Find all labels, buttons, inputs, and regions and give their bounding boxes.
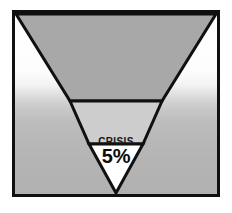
figure-root: CRISIS 5% xyxy=(0,0,232,213)
funnel-band-middle[interactable] xyxy=(70,101,162,144)
funnel-band-apex[interactable] xyxy=(89,144,143,193)
inverted-pyramid-diagram xyxy=(15,13,217,194)
funnel-band-top[interactable] xyxy=(16,14,216,101)
figure-frame: CRISIS 5% xyxy=(12,10,220,197)
